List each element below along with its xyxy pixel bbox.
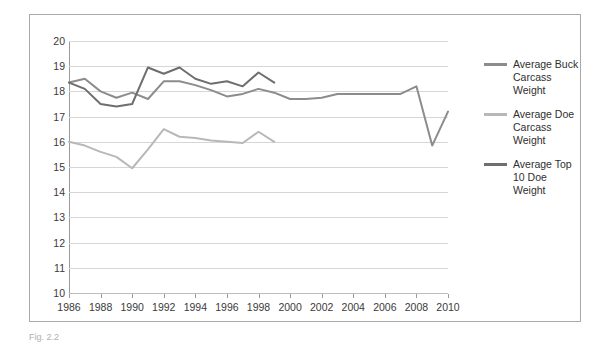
x-axis-tick-label: 1996: [215, 301, 238, 313]
legend-item: Average Buck Carcass Weight: [484, 58, 579, 97]
x-axis-tick: [132, 294, 133, 298]
x-axis-tick: [195, 294, 196, 298]
x-axis-tick-label: 2008: [405, 301, 428, 313]
y-axis-tick-label: 17: [31, 112, 65, 122]
x-axis-tick-label: 1990: [120, 301, 143, 313]
y-axis-tick-label: 13: [31, 212, 65, 222]
y-axis-tick-label: 15: [31, 162, 65, 172]
x-axis-tick: [290, 294, 291, 298]
x-axis-tick-label: 1998: [247, 301, 270, 313]
legend-label: Average Doe Carcass Weight: [513, 108, 579, 147]
x-axis-tick: [227, 294, 228, 298]
series-line: [69, 67, 274, 106]
x-axis-tick-label: 2006: [373, 301, 396, 313]
series-lines: [69, 41, 448, 293]
y-axis-tick-label: 20: [31, 36, 65, 46]
x-axis-tick-label: 2010: [436, 301, 459, 313]
legend-label: Average Buck Carcass Weight: [513, 58, 579, 97]
y-axis-tick-label: 14: [31, 187, 65, 197]
legend-label: Average Top 10 Doe Weight: [513, 158, 579, 197]
x-axis-tick-label: 2004: [342, 301, 365, 313]
x-axis-tick-label: 1988: [89, 301, 112, 313]
chart-area: 1011121314151617181920 19861988199019921…: [29, 14, 581, 322]
y-axis-tick-label: 18: [31, 86, 65, 96]
plot-region: [69, 41, 448, 293]
series-line: [69, 79, 448, 146]
legend-item: Average Top 10 Doe Weight: [484, 158, 579, 197]
x-axis-tick: [259, 294, 260, 298]
figure-caption: Fig. 2.2: [29, 332, 59, 346]
x-axis-labels: 1986198819901992199419961998200020022004…: [69, 301, 448, 315]
x-axis-tick-label: 1994: [184, 301, 207, 313]
x-axis-tick: [385, 294, 386, 298]
x-axis-tick: [416, 294, 417, 298]
series-line: [69, 129, 274, 168]
y-axis-tick-label: 12: [31, 238, 65, 248]
x-axis-tick: [322, 294, 323, 298]
x-axis-tick: [448, 294, 449, 298]
x-axis-tick: [101, 294, 102, 298]
legend-color-swatch: [484, 63, 507, 66]
x-axis-tick-label: 1986: [57, 301, 80, 313]
y-axis-labels: 1011121314151617181920: [29, 41, 65, 293]
figure: 1011121314151617181920 19861988199019921…: [0, 0, 598, 346]
y-axis-tick-label: 11: [31, 263, 65, 273]
legend-item: Average Doe Carcass Weight: [484, 108, 579, 147]
legend-color-swatch: [484, 113, 507, 116]
x-axis-tick-label: 1992: [152, 301, 175, 313]
chart-legend: Average Buck Carcass WeightAverage Doe C…: [484, 58, 579, 208]
legend-color-swatch: [484, 163, 507, 166]
x-axis-tick-label: 2000: [278, 301, 301, 313]
x-axis-ticks: [69, 294, 448, 299]
y-axis-tick-label: 10: [31, 288, 65, 298]
x-axis-tick: [69, 294, 70, 298]
y-axis-tick-label: 16: [31, 137, 65, 147]
x-axis-tick-label: 2002: [310, 301, 333, 313]
x-axis-tick: [353, 294, 354, 298]
y-axis-tick-label: 19: [31, 61, 65, 71]
x-axis-tick: [164, 294, 165, 298]
